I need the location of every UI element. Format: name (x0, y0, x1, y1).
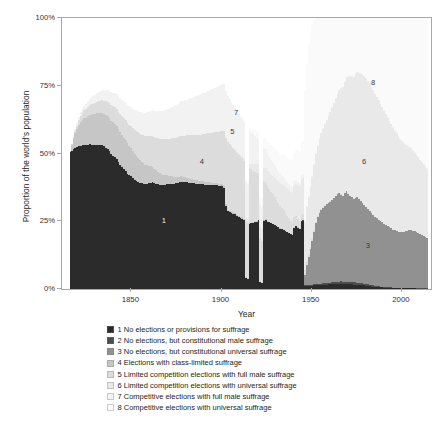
series-annotation-4: 4 (200, 158, 204, 166)
y-tick-label-75: 75% (11, 81, 55, 90)
stacked-area-series-group (62, 18, 431, 289)
legend-label-3: 3 No elections, but constitutional unive… (118, 348, 287, 356)
legend-label-7: 7 Competitive elections with full male s… (118, 393, 270, 401)
x-tick-mark (311, 288, 312, 292)
series-annotation-7: 7 (234, 109, 238, 117)
series-annotation-5: 5 (230, 128, 234, 136)
y-tick-label-100: 100% (11, 13, 55, 22)
legend-swatch-8 (107, 404, 114, 411)
legend-label-1: 1 No elections or provisions for suffrag… (118, 326, 250, 334)
x-tick-label-1950: 1950 (281, 295, 341, 304)
legend-item-7[interactable]: 7 Competitive elections with full male s… (107, 391, 427, 402)
legend-item-8[interactable]: 8 Competitive elections with universal s… (107, 402, 427, 413)
series-annotation-8: 8 (371, 79, 375, 87)
legend-label-6: 6 Limited competition elections with uni… (118, 382, 297, 390)
legend-item-6[interactable]: 6 Limited competition elections with uni… (107, 380, 427, 391)
y-tick-label-0: 0% (11, 284, 55, 293)
legend-label-8: 8 Competitive elections with universal s… (118, 404, 272, 412)
legend-swatch-1 (107, 326, 114, 333)
legend-label-2: 2 No elections, but constitutional male … (118, 337, 273, 345)
x-tick-label-2000: 2000 (371, 295, 431, 304)
legend-item-4[interactable]: 4 Elections with class-limited suffrage (107, 358, 427, 369)
y-tick-label-25: 25% (11, 216, 55, 225)
figure-area-chart: Proportion of the world's population 0%2… (0, 0, 442, 445)
series-annotation-1: 1 (162, 217, 166, 225)
x-tick-mark (130, 288, 131, 292)
x-tick-mark (401, 288, 402, 292)
legend-swatch-6 (107, 382, 114, 389)
legend-item-1[interactable]: 1 No elections or provisions for suffrag… (107, 324, 427, 335)
legend-swatch-2 (107, 337, 114, 344)
plot-clip (62, 18, 431, 289)
series-annotation-3: 3 (366, 242, 370, 250)
legend-swatch-4 (107, 360, 114, 367)
legend-item-2[interactable]: 2 No elections, but constitutional male … (107, 335, 427, 346)
plot-area: 1457638 (61, 17, 432, 290)
series-annotation-6: 6 (362, 158, 366, 166)
x-tick-label-1850: 1850 (100, 295, 160, 304)
legend-label-5: 5 Limited competition elections with ful… (118, 371, 295, 379)
legend-item-3[interactable]: 3 No elections, but constitutional unive… (107, 346, 427, 357)
legend-swatch-3 (107, 348, 114, 355)
x-tick-mark (221, 288, 222, 292)
legend-swatch-7 (107, 393, 114, 400)
legend-item-5[interactable]: 5 Limited competition elections with ful… (107, 369, 427, 380)
chart-legend: 1 No elections or provisions for suffrag… (107, 324, 427, 414)
x-axis-title: Year (61, 309, 432, 319)
x-tick-label-1900: 1900 (191, 295, 251, 304)
legend-label-4: 4 Elections with class-limited suffrage (118, 359, 243, 367)
y-tick-label-50: 50% (11, 149, 55, 158)
legend-swatch-5 (107, 371, 114, 378)
